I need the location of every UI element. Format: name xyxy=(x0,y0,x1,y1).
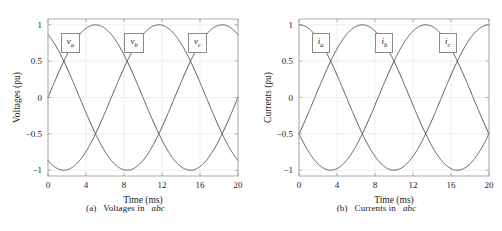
y-tick-label: −1 xyxy=(283,165,293,175)
series-label-v-c: vc xyxy=(188,33,207,53)
x-tick-label: 4 xyxy=(84,180,89,190)
x-tick-label: 0 xyxy=(46,180,51,190)
series-label-subscript: c xyxy=(448,41,451,48)
y-tick-label: 0.5 xyxy=(282,56,294,66)
caption-text-a: Voltages in xyxy=(103,203,144,213)
panel-caption-b: (b) Currents in abc xyxy=(251,203,502,213)
panel-currents-abc: 048121620−1−0.500.51Time (ms)Currents (p… xyxy=(251,0,502,231)
x-tick-label: 8 xyxy=(373,180,378,190)
series-label-i-b: ib xyxy=(375,33,393,53)
series-label-subscript: b xyxy=(134,41,137,48)
caption-prefix-b: (b) xyxy=(337,203,348,213)
y-tick-label: 1 xyxy=(289,20,294,30)
series-label-i-a: ia xyxy=(312,33,330,53)
y-axis-title: Currents (pu) xyxy=(263,72,274,123)
y-tick-label: 0 xyxy=(289,93,294,103)
panel-voltages-abc: 048121620−1−0.500.51Time (ms)Voltages (p… xyxy=(0,0,251,231)
y-tick-label: −0.5 xyxy=(277,129,294,139)
series-label-i-c: ic xyxy=(439,33,456,53)
x-tick-label: 12 xyxy=(158,180,167,190)
y-axis-title: Voltages (pu) xyxy=(12,72,23,123)
x-tick-label: 12 xyxy=(409,180,418,190)
caption-italic-b: abc xyxy=(403,203,416,213)
caption-text-b: Currents in xyxy=(355,203,396,213)
caption-prefix-a: (a) xyxy=(86,203,96,213)
series-label-v-a: va xyxy=(61,33,80,53)
series-label-subscript: a xyxy=(320,41,323,48)
series-label-v-b: vb xyxy=(124,33,143,53)
y-tick-label: −0.5 xyxy=(26,129,43,139)
caption-italic-a: abc xyxy=(152,203,165,213)
figure-container: 048121620−1−0.500.51Time (ms)Voltages (p… xyxy=(0,0,502,231)
series-label-subscript: c xyxy=(198,41,201,48)
y-tick-label: 0 xyxy=(38,93,43,103)
x-tick-label: 0 xyxy=(297,180,302,190)
series-label-subscript: a xyxy=(71,41,74,48)
y-tick-label: 0.5 xyxy=(31,56,43,66)
series-label-subscript: b xyxy=(384,41,387,48)
y-tick-label: 1 xyxy=(38,20,43,30)
x-tick-label: 16 xyxy=(196,180,206,190)
x-tick-label: 4 xyxy=(335,180,340,190)
x-tick-label: 8 xyxy=(122,180,127,190)
y-tick-label: −1 xyxy=(32,165,42,175)
panel-caption-a: (a) Voltages in abc xyxy=(0,203,251,213)
x-tick-label: 16 xyxy=(447,180,457,190)
x-tick-label: 20 xyxy=(234,180,244,190)
x-tick-label: 20 xyxy=(485,180,495,190)
